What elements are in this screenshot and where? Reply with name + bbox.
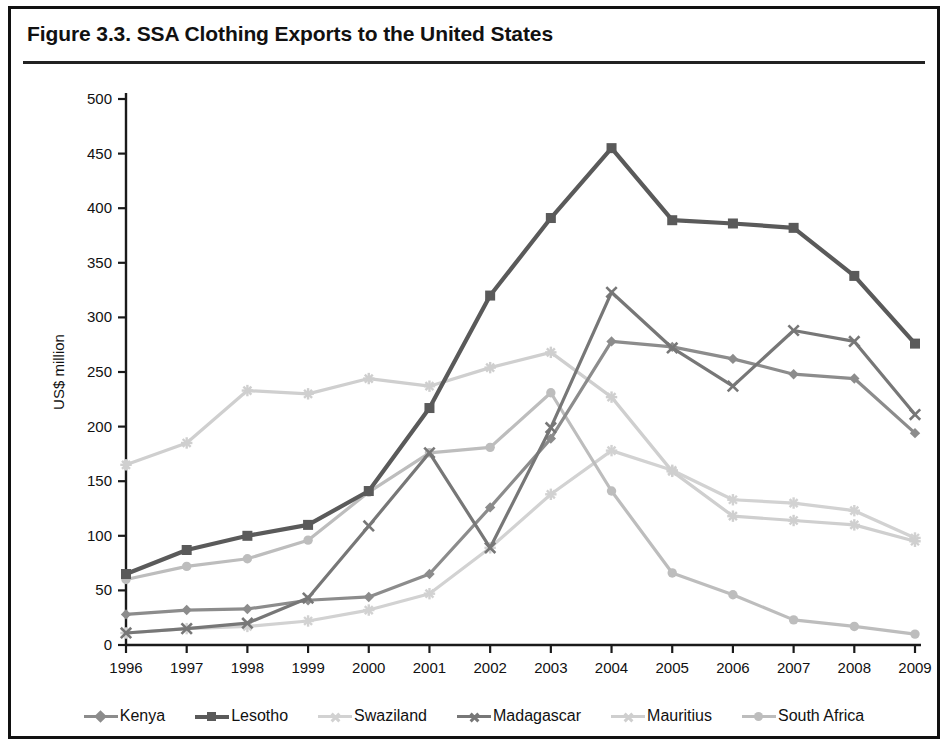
legend-item-label: Kenya <box>120 707 165 725</box>
data-point-marker <box>728 590 737 599</box>
data-point-marker <box>849 505 860 516</box>
data-point-marker <box>910 409 920 419</box>
data-point-marker <box>607 486 616 495</box>
x-axis-tick-label: 1998 <box>231 659 264 676</box>
data-point-marker <box>606 445 617 456</box>
data-point-marker <box>668 568 677 577</box>
x-axis-tick-label: 2006 <box>716 659 749 676</box>
data-point-marker <box>182 562 191 571</box>
figure-frame: Figure 3.3. SSA Clothing Exports to the … <box>8 6 940 739</box>
data-point-marker <box>121 569 131 579</box>
data-point-marker <box>545 489 556 500</box>
data-point-marker <box>849 271 859 281</box>
line-chart: 050100150200250300350400450500US$ millio… <box>11 67 937 707</box>
legend-item-label: Madagascar <box>493 707 581 725</box>
data-point-marker <box>728 354 738 364</box>
legend-item-mauritius[interactable]: Mauritius <box>611 707 712 725</box>
chart-legend: KenyaLesothoSwazilandMadagascarMauritius… <box>11 699 937 733</box>
y-axis-tick-label: 150 <box>87 472 112 489</box>
legend-item-south-africa[interactable]: South Africa <box>742 707 864 725</box>
x-axis-tick-label: 2007 <box>777 659 810 676</box>
page-title: Figure 3.3. SSA Clothing Exports to the … <box>27 22 553 46</box>
legend-swatch-icon <box>84 709 118 723</box>
data-point-marker <box>181 437 192 448</box>
y-axis-title: US$ million <box>50 334 67 410</box>
data-point-marker <box>424 380 435 391</box>
data-point-marker <box>364 592 374 602</box>
y-axis-tick-label: 500 <box>87 90 112 107</box>
legend-item-label: Lesotho <box>231 707 288 725</box>
data-point-marker <box>789 223 799 233</box>
data-point-marker <box>182 545 192 555</box>
data-point-marker <box>121 609 131 619</box>
data-point-marker <box>545 347 556 358</box>
y-axis-tick-label: 50 <box>95 581 112 598</box>
y-axis-tick-label: 200 <box>87 418 112 435</box>
legend-item-lesotho[interactable]: Lesotho <box>195 707 288 725</box>
legend-swatch-icon <box>457 709 491 723</box>
y-axis-tick-label: 450 <box>87 145 112 162</box>
data-point-marker <box>484 362 495 373</box>
x-axis-tick-label: 2000 <box>352 659 385 676</box>
data-point-marker <box>364 521 374 531</box>
y-axis-tick-label: 350 <box>87 254 112 271</box>
data-point-marker <box>546 213 556 223</box>
legend-swatch-icon <box>318 709 352 723</box>
data-point-marker <box>485 443 494 452</box>
legend-swatch-icon <box>742 709 776 723</box>
x-axis-tick-label: 2003 <box>534 659 567 676</box>
legend-item-kenya[interactable]: Kenya <box>84 707 165 725</box>
x-axis-tick-label: 2004 <box>595 659 628 676</box>
legend-item-label: South Africa <box>778 707 864 725</box>
data-point-marker <box>849 519 860 530</box>
y-axis-tick-label: 400 <box>87 199 112 216</box>
x-axis-tick-label: 1996 <box>109 659 142 676</box>
x-axis-tick-label: 2009 <box>898 659 931 676</box>
legend-swatch-icon <box>611 709 645 723</box>
legend-item-swaziland[interactable]: Swaziland <box>318 707 427 725</box>
data-point-marker <box>667 215 677 225</box>
data-point-marker <box>424 588 435 599</box>
chart-plot-area: 050100150200250300350400450500US$ millio… <box>11 67 937 739</box>
data-point-marker <box>607 143 617 153</box>
x-axis-tick-label: 2005 <box>656 659 689 676</box>
y-axis-tick-label: 0 <box>104 636 112 653</box>
data-point-marker <box>181 605 191 615</box>
data-point-marker <box>424 403 434 413</box>
data-point-marker <box>728 218 738 228</box>
data-point-marker <box>302 615 313 626</box>
x-axis-tick-label: 2008 <box>838 659 871 676</box>
x-axis-tick-label: 1999 <box>291 659 324 676</box>
data-point-marker <box>242 531 252 541</box>
data-point-marker <box>546 388 555 397</box>
series-line-mauritius <box>126 352 915 541</box>
y-axis-tick-label: 250 <box>87 363 112 380</box>
legend-item-label: Swaziland <box>354 707 427 725</box>
x-axis-tick-label: 1997 <box>170 659 203 676</box>
series-line-swaziland <box>126 451 915 633</box>
legend-swatch-icon <box>195 709 229 723</box>
data-point-marker <box>727 510 738 521</box>
x-axis-tick-label: 2002 <box>473 659 506 676</box>
data-point-marker <box>242 604 252 614</box>
legend-item-label: Mauritius <box>647 707 712 725</box>
data-point-marker <box>789 615 798 624</box>
data-point-marker <box>728 381 738 391</box>
series-line-kenya <box>126 341 915 614</box>
title-divider <box>23 61 925 64</box>
data-point-marker <box>120 459 131 470</box>
legend-item-madagascar[interactable]: Madagascar <box>457 707 581 725</box>
series-line-madagascar <box>126 292 915 633</box>
data-point-marker <box>727 494 738 505</box>
data-point-marker <box>363 604 374 615</box>
series-line-south-africa <box>126 393 915 634</box>
y-axis-tick-label: 100 <box>87 527 112 544</box>
data-point-marker <box>667 466 678 477</box>
data-point-marker <box>910 339 920 349</box>
data-point-marker <box>363 373 374 384</box>
data-point-marker <box>788 515 799 526</box>
data-point-marker <box>910 629 919 638</box>
data-point-marker <box>788 497 799 508</box>
data-point-marker <box>850 622 859 631</box>
data-point-marker <box>302 388 313 399</box>
